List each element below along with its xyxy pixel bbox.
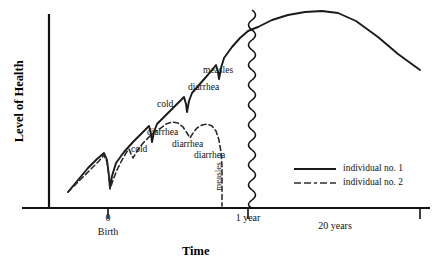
- annotation-individual-1-diarrhea: diarrhea: [188, 83, 219, 93]
- x-tick-label-birth-value: 0: [98, 213, 118, 223]
- axis-break-squiggle-icon: [249, 10, 256, 208]
- annotation-individual-2-diarrhea-1: diarrhea: [147, 128, 178, 138]
- annotation-individual-2-measles: measles: [214, 155, 223, 199]
- chart-plot-area: [0, 0, 434, 270]
- x-tick-label-birth: Birth: [88, 227, 128, 237]
- annotation-individual-2-diarrhea-2: diarrhea: [172, 140, 203, 150]
- y-axis-title: Level of Health: [13, 51, 26, 151]
- legend-label-individual-no-2: individual no. 2: [343, 178, 403, 188]
- annotation-individual-2-cold: cold: [131, 145, 147, 155]
- x-axis-title: Time: [182, 245, 210, 258]
- x-tick-label-twenty-years: 20 years: [309, 221, 361, 231]
- legend-label-individual-no-1: individual no. 1: [343, 164, 403, 174]
- chart-figure: Level of Health Time 0 Birth 1 year 20 y…: [0, 0, 434, 270]
- x-tick-label-one-year: 1 year: [228, 213, 268, 223]
- annotation-individual-1-measles: measles: [203, 66, 233, 76]
- annotation-individual-1-cold: cold: [157, 100, 173, 110]
